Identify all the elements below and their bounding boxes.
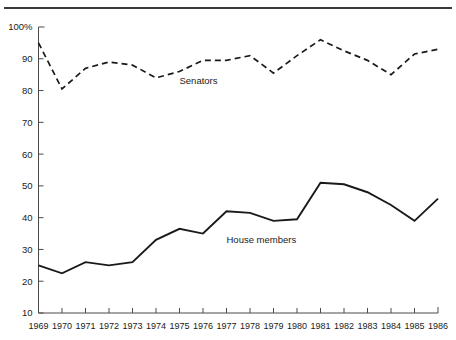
- y-tick-label: 70: [22, 117, 33, 128]
- x-tick-label: 1983: [357, 321, 377, 331]
- x-tick-label: 1974: [146, 321, 166, 331]
- x-tick-label: 1972: [99, 321, 119, 331]
- y-tick-label: 10: [22, 307, 33, 318]
- x-axis: 1969197019711972197319741975197619771978…: [28, 308, 448, 331]
- x-tick-label: 1970: [52, 321, 72, 331]
- x-tick-label: 1977: [216, 321, 236, 331]
- y-axis: 102030405060708090100%: [8, 21, 438, 318]
- y-tick-label: 40: [22, 212, 33, 223]
- y-tick-label: 20: [22, 276, 33, 287]
- series-label-senators: Senators: [180, 75, 218, 86]
- x-tick-label: 1985: [404, 321, 424, 331]
- y-tick-label: 30: [22, 244, 33, 255]
- x-tick-label: 1976: [193, 321, 213, 331]
- y-tick-label: 100%: [8, 21, 33, 32]
- x-tick-label: 1986: [428, 321, 448, 331]
- x-tick-label: 1971: [75, 321, 95, 331]
- x-tick-label: 1978: [240, 321, 260, 331]
- series-line-house-members: [39, 183, 439, 274]
- x-tick-label: 1975: [169, 321, 189, 331]
- x-tick-label: 1980: [287, 321, 307, 331]
- y-tick-label: 80: [22, 85, 33, 96]
- x-tick-label: 1984: [381, 321, 401, 331]
- series-label-house-members: House members: [227, 234, 297, 245]
- x-tick-label: 1979: [263, 321, 283, 331]
- chart-canvas: 102030405060708090100% 19691970197119721…: [0, 0, 456, 340]
- x-tick-label: 1969: [28, 321, 48, 331]
- series-line-senators: [39, 40, 439, 89]
- x-tick-label: 1981: [310, 321, 330, 331]
- y-tick-label: 50: [22, 180, 33, 191]
- axis-spine: [39, 27, 439, 313]
- x-tick-label: 1982: [334, 321, 354, 331]
- x-tick-label: 1973: [122, 321, 142, 331]
- line-chart: 102030405060708090100% 19691970197119721…: [0, 0, 456, 340]
- y-tick-label: 90: [22, 53, 33, 64]
- y-tick-label: 60: [22, 149, 33, 160]
